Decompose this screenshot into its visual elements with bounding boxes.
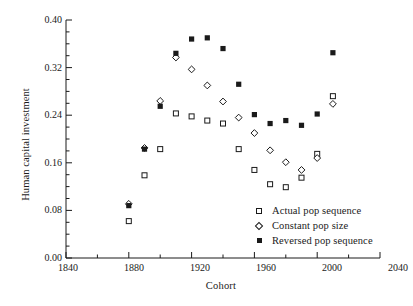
data-point xyxy=(157,98,164,105)
data-point xyxy=(189,114,194,119)
data-point xyxy=(189,36,194,41)
legend: Actual pop sequence Constant pop size Re… xyxy=(251,203,373,248)
data-point xyxy=(252,167,257,172)
square-filled-icon xyxy=(251,238,267,243)
data-point xyxy=(235,114,242,121)
data-point xyxy=(204,82,211,89)
data-point xyxy=(158,104,163,109)
diamond-open-icon xyxy=(251,223,267,229)
data-point xyxy=(330,100,337,107)
legend-item-constant[interactable]: Constant pop size xyxy=(251,218,373,233)
data-point xyxy=(267,147,274,154)
data-point xyxy=(315,111,320,116)
data-point xyxy=(299,123,304,128)
data-point xyxy=(298,167,305,174)
data-point xyxy=(188,66,195,73)
data-point xyxy=(142,173,147,178)
data-point xyxy=(236,147,241,152)
data-point xyxy=(142,147,147,152)
data-point xyxy=(173,111,178,116)
x-axis-title: Cohort xyxy=(66,280,376,291)
data-point xyxy=(158,147,163,152)
data-point xyxy=(283,185,288,190)
square-open-icon xyxy=(251,208,267,214)
data-point xyxy=(126,219,131,224)
data-point xyxy=(205,118,210,123)
y-axis-ticks xyxy=(66,20,72,258)
data-point xyxy=(173,51,178,56)
x-axis-ticks xyxy=(66,252,380,258)
data-point xyxy=(330,50,335,55)
data-point xyxy=(252,112,257,117)
data-point xyxy=(330,94,335,99)
data-point xyxy=(236,82,241,87)
legend-label: Reversed pop sequence xyxy=(267,235,373,246)
data-point xyxy=(299,175,304,180)
legend-label: Constant pop size xyxy=(267,220,348,231)
legend-item-reversed[interactable]: Reversed pop sequence xyxy=(251,233,373,248)
data-point xyxy=(268,182,273,187)
data-point-group xyxy=(125,35,336,223)
legend-label: Actual pop sequence xyxy=(267,205,361,216)
data-point xyxy=(268,121,273,126)
data-point xyxy=(220,98,227,105)
data-point xyxy=(205,35,210,40)
data-point xyxy=(282,159,289,166)
data-point xyxy=(220,46,225,51)
data-point xyxy=(221,121,226,126)
data-point xyxy=(251,130,258,137)
data-point xyxy=(283,118,288,123)
legend-item-actual[interactable]: Actual pop sequence xyxy=(251,203,373,218)
data-point xyxy=(126,203,131,208)
